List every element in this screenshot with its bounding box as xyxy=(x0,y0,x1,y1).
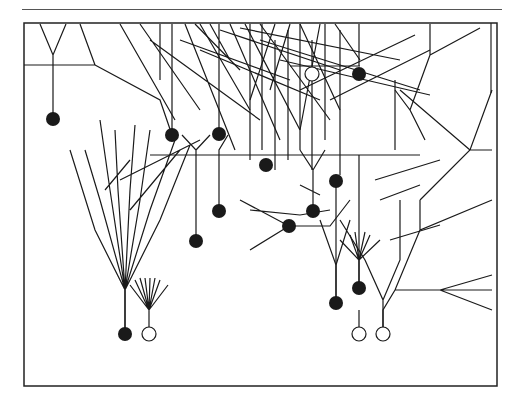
filled-neuron xyxy=(212,127,226,141)
filled-neuron xyxy=(306,204,320,218)
neuron-network-figure xyxy=(0,0,515,398)
hollow-neuron xyxy=(376,327,390,341)
filled-neuron xyxy=(189,234,203,248)
filled-neuron xyxy=(352,281,366,295)
filled-neuron xyxy=(352,67,366,81)
filled-neuron xyxy=(118,327,132,341)
filled-neuron xyxy=(259,158,273,172)
filled-neuron xyxy=(282,219,296,233)
filled-neuron xyxy=(212,204,226,218)
filled-neuron xyxy=(46,112,60,126)
axon-dendrite-lines xyxy=(24,24,492,334)
figure-frame xyxy=(24,23,497,386)
filled-neuron xyxy=(165,128,179,142)
figure-canvas xyxy=(0,0,515,398)
hollow-neuron xyxy=(305,67,319,81)
hollow-neuron xyxy=(142,327,156,341)
hollow-neuron xyxy=(352,327,366,341)
filled-neuron xyxy=(329,296,343,310)
filled-neuron xyxy=(329,174,343,188)
